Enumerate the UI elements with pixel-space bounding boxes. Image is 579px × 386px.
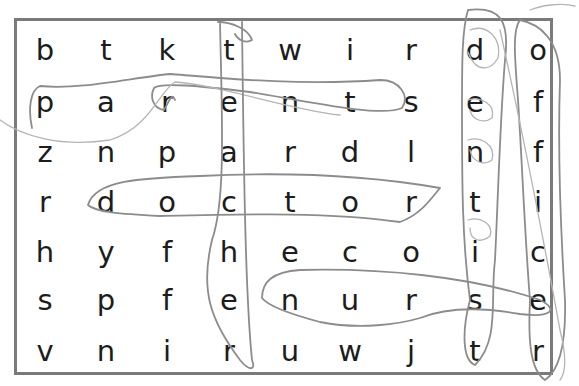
- letter-cell[interactable]: e: [270, 232, 310, 272]
- letter-cell[interactable]: y: [86, 232, 126, 272]
- letter-cell[interactable]: j: [391, 331, 431, 371]
- letter-cell[interactable]: e: [209, 280, 249, 320]
- letter-cell[interactable]: r: [209, 331, 249, 371]
- letter-cell[interactable]: f: [147, 280, 187, 320]
- letter-cell[interactable]: n: [86, 331, 126, 371]
- letter-cell[interactable]: p: [147, 132, 187, 172]
- letter-cell[interactable]: o: [391, 232, 431, 272]
- letter-cell[interactable]: d: [86, 182, 126, 222]
- letter-cell[interactable]: i: [147, 331, 187, 371]
- letter-cell[interactable]: r: [25, 182, 65, 222]
- letter-cell[interactable]: e: [209, 82, 249, 122]
- letter-cell[interactable]: s: [25, 280, 65, 320]
- letter-cell[interactable]: r: [147, 82, 187, 122]
- letter-cell[interactable]: s: [391, 82, 431, 122]
- letter-cell[interactable]: r: [391, 280, 431, 320]
- letter-cell[interactable]: u: [330, 280, 370, 320]
- letter-cell[interactable]: f: [147, 232, 187, 272]
- letter-cell[interactable]: u: [270, 331, 310, 371]
- letter-cell[interactable]: a: [86, 82, 126, 122]
- letter-cell[interactable]: a: [209, 132, 249, 172]
- letter-cell[interactable]: c: [330, 232, 370, 272]
- letter-cell[interactable]: p: [25, 82, 65, 122]
- letter-cell[interactable]: i: [518, 182, 558, 222]
- letter-cell[interactable]: c: [518, 232, 558, 272]
- letter-cell[interactable]: t: [330, 82, 370, 122]
- letter-cell[interactable]: t: [270, 182, 310, 222]
- letter-cell[interactable]: r: [270, 132, 310, 172]
- letter-cell[interactable]: e: [518, 280, 558, 320]
- letter-cell[interactable]: f: [518, 82, 558, 122]
- letter-cell[interactable]: k: [147, 30, 187, 70]
- letter-cell[interactable]: i: [330, 30, 370, 70]
- letter-cell[interactable]: o: [330, 182, 370, 222]
- letter-cell[interactable]: n: [270, 280, 310, 320]
- letter-cell[interactable]: n: [455, 132, 495, 172]
- letter-cell[interactable]: i: [455, 232, 495, 272]
- letter-cell[interactable]: t: [209, 30, 249, 70]
- letter-cell[interactable]: t: [86, 30, 126, 70]
- letter-cell[interactable]: h: [25, 232, 65, 272]
- letter-cell[interactable]: d: [330, 132, 370, 172]
- letter-cell[interactable]: l: [391, 132, 431, 172]
- letter-cell[interactable]: h: [209, 232, 249, 272]
- letter-cell[interactable]: n: [270, 82, 310, 122]
- letter-cell[interactable]: t: [455, 182, 495, 222]
- letter-cell[interactable]: f: [518, 132, 558, 172]
- letter-cell[interactable]: n: [86, 132, 126, 172]
- letter-cell[interactable]: d: [455, 30, 495, 70]
- letter-cell[interactable]: c: [209, 182, 249, 222]
- letter-cell[interactable]: p: [86, 280, 126, 320]
- letter-cell[interactable]: r: [518, 331, 558, 371]
- letter-cell[interactable]: z: [25, 132, 65, 172]
- letter-cell[interactable]: t: [455, 331, 495, 371]
- letter-cell[interactable]: e: [455, 82, 495, 122]
- letter-cell[interactable]: r: [391, 30, 431, 70]
- letter-cell[interactable]: b: [25, 30, 65, 70]
- letter-cell[interactable]: o: [518, 30, 558, 70]
- letter-cell[interactable]: v: [25, 331, 65, 371]
- letter-cell[interactable]: r: [391, 182, 431, 222]
- letter-cell[interactable]: o: [147, 182, 187, 222]
- letter-cell[interactable]: s: [455, 280, 495, 320]
- letter-cell[interactable]: w: [270, 30, 310, 70]
- letter-cell[interactable]: w: [330, 331, 370, 371]
